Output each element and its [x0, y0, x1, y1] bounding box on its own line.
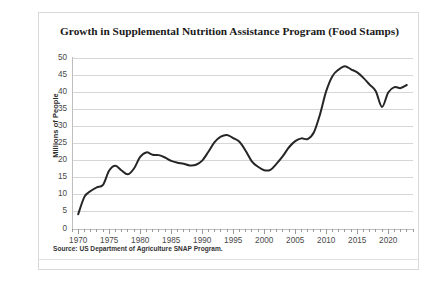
- y-tick-label: 25: [45, 138, 67, 147]
- plot-area: Millions of People 051015202530354045501…: [39, 13, 420, 271]
- x-tick-label: 2020: [371, 236, 405, 245]
- x-tick-label: 2000: [247, 236, 281, 245]
- x-tick-label: 1980: [123, 236, 157, 245]
- data-line-snap-participation: [78, 66, 407, 214]
- x-tick-label: 2010: [309, 236, 343, 245]
- y-tick-label: 50: [45, 53, 67, 62]
- y-tick-label: 0: [45, 224, 67, 233]
- y-tick-label: 45: [45, 70, 67, 79]
- y-tick-label: 40: [45, 87, 67, 96]
- x-tick-label: 2015: [340, 236, 374, 245]
- x-tick-label: 1975: [92, 236, 126, 245]
- x-tick-label: 1995: [216, 236, 250, 245]
- y-tick-label: 35: [45, 104, 67, 113]
- line-chart-svg: [39, 13, 420, 271]
- source-note: Source: US Department of Agriculture SNA…: [53, 245, 223, 252]
- y-tick-label: 15: [45, 172, 67, 181]
- x-tick-label: 1970: [61, 236, 95, 245]
- y-tick-label: 5: [45, 206, 67, 215]
- y-tick-label: 10: [45, 189, 67, 198]
- y-tick-label: 20: [45, 155, 67, 164]
- x-tick-label: 2005: [278, 236, 312, 245]
- y-tick-label: 30: [45, 121, 67, 130]
- x-tick-label: 1990: [185, 236, 219, 245]
- x-tick-label: 1985: [154, 236, 188, 245]
- chart-card: Growth in Supplemental Nutrition Assista…: [38, 12, 419, 270]
- source-divider: [39, 259, 418, 260]
